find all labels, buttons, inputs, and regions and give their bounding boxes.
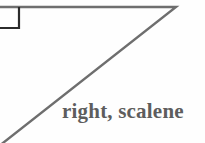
- triangle-figure: right, scalene: [0, 0, 205, 143]
- shape-label: right, scalene: [62, 101, 184, 122]
- right-angle-square-icon: [0, 7, 19, 28]
